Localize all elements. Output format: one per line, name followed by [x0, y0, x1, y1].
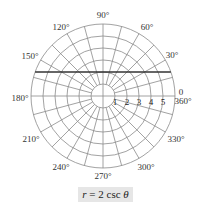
polar-grid	[31, 24, 175, 168]
radial-tick-2: 2	[125, 97, 130, 107]
angle-label-360: 360°	[174, 96, 192, 106]
angle-label-210: 210°	[22, 134, 40, 144]
angle-label-150: 150°	[21, 51, 39, 61]
radial-tick-5: 5	[161, 97, 166, 107]
grid-spoke	[33, 99, 91, 115]
angle-label-120: 120°	[52, 22, 70, 32]
angle-label-330: 330°	[167, 134, 185, 144]
radial-tick-4: 4	[149, 97, 154, 107]
grid-spoke	[111, 104, 153, 146]
grid-spoke	[84, 26, 100, 84]
angle-label-90: 90°	[97, 10, 110, 20]
grid-spoke	[106, 26, 122, 84]
grid-spoke	[115, 77, 173, 93]
grid-spoke	[111, 45, 153, 87]
angle-label-180: 180°	[11, 93, 29, 103]
grid-spoke	[52, 104, 94, 146]
caption-theta: θ	[123, 188, 128, 200]
grid-spoke	[33, 77, 91, 93]
radial-tick-1: 1	[113, 97, 118, 107]
grid-spoke	[106, 108, 122, 166]
angle-label-60: 60°	[141, 22, 154, 32]
caption-middle: = 2 csc	[87, 188, 124, 200]
equation-caption: r = 2 csc θ	[78, 187, 133, 202]
angle-label-300: 300°	[137, 162, 155, 172]
grid-spoke	[52, 45, 94, 87]
angle-label-30: 30°	[166, 50, 179, 60]
grid-spoke	[84, 108, 100, 166]
radial-tick-3: 3	[137, 97, 142, 107]
angle-label-240: 240°	[52, 162, 70, 172]
angle-label-270: 270°	[94, 171, 112, 181]
